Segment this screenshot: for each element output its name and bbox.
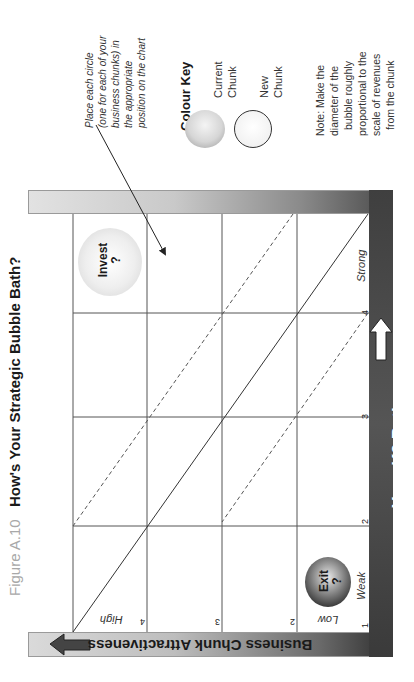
y-tick-2: 2 bbox=[290, 617, 295, 627]
y-low-label: Low bbox=[318, 614, 338, 626]
invest-bubble: Invest ? bbox=[97, 238, 123, 282]
exit-bubble: Exit ? bbox=[318, 566, 344, 596]
x-tick-3: 3 bbox=[360, 414, 370, 419]
x-weak-label: Weak bbox=[355, 572, 367, 600]
attractiveness-axis-title: Business Chunk Attractiveness bbox=[50, 636, 350, 654]
y-high-label: High bbox=[100, 614, 123, 626]
y-tick-3: 3 bbox=[215, 617, 220, 627]
k2-rating-axis-title: Your K2 Rating bbox=[389, 386, 409, 508]
x-tick-2: 2 bbox=[360, 519, 370, 524]
exit-question: ? bbox=[331, 566, 344, 596]
y-tick-4: 4 bbox=[140, 617, 145, 627]
x-tick-1: 1 bbox=[360, 623, 370, 628]
invest-question: ? bbox=[110, 238, 123, 282]
x-tick-4: 4 bbox=[360, 310, 370, 315]
x-strong-label: Strong bbox=[355, 250, 367, 282]
chart-grid bbox=[0, 0, 414, 682]
